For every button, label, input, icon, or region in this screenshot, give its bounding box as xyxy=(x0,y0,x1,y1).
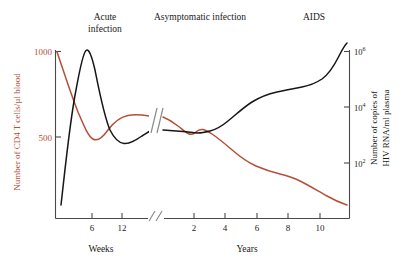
right-tick-1e2-base: 10 xyxy=(354,159,363,169)
phase-label-asymptomatic: Asymptomatic infection xyxy=(154,12,246,22)
phase-labels: Acute infection Asymptomatic infection A… xyxy=(88,12,325,34)
right-tick-1e6-exp: 6 xyxy=(363,46,366,52)
x-axis-title-years: Years xyxy=(236,244,258,254)
weeks-tick-label-12: 12 xyxy=(118,223,127,233)
right-tick-1e2-exp: 2 xyxy=(363,158,366,164)
y-axis-title-right-line2: HIV RNA/ml plasma xyxy=(381,90,391,167)
years-tick-label-8: 8 xyxy=(286,223,291,233)
weeks-tick-label-6: 6 xyxy=(90,223,95,233)
y-axis-title-right-line1: Number of copies of xyxy=(369,91,379,165)
right-tick-label-1e2: 102 xyxy=(354,158,366,169)
right-tick-1e4-base: 10 xyxy=(354,103,363,113)
series-weeks-segment xyxy=(57,50,150,205)
axis-break xyxy=(148,105,164,222)
years-tick-label-6: 6 xyxy=(255,223,260,233)
years-tick-label-10: 10 xyxy=(316,223,326,233)
years-tick-label-2: 2 xyxy=(192,223,197,233)
right-tick-1e4-exp: 4 xyxy=(363,102,366,108)
phase-label-acute-line2: infection xyxy=(88,24,122,34)
rna-curve-years xyxy=(163,43,347,133)
right-tick-label-1e4: 104 xyxy=(354,102,366,113)
right-axis-ticks: 106 104 102 xyxy=(344,46,366,169)
phase-label-aids: AIDS xyxy=(303,12,325,22)
years-tick-label-4: 4 xyxy=(223,223,228,233)
axis-titles: Weeks Years Number of CD4 T cells/µl blo… xyxy=(12,73,391,254)
bottom-axis-ticks: 6 12 2 4 6 8 10 xyxy=(90,213,325,233)
x-axis-title-weeks: Weeks xyxy=(88,244,113,254)
phase-label-acute-line1: Acute xyxy=(94,12,117,22)
cd4-curve-years xyxy=(163,117,347,205)
chart-svg: Acute infection Asymptomatic infection A… xyxy=(0,0,405,265)
left-axis-ticks: 1000 500 xyxy=(34,47,61,143)
right-tick-1e6-base: 10 xyxy=(354,47,363,57)
axis-frame xyxy=(56,50,350,219)
hiv-infection-chart: Acute infection Asymptomatic infection A… xyxy=(0,0,405,265)
y-axis-title-left: Number of CD4 T cells/µl blood xyxy=(12,73,22,191)
rna-curve-weeks xyxy=(61,50,150,205)
left-tick-label-500: 500 xyxy=(39,133,53,143)
series-years-segment xyxy=(163,43,347,205)
right-tick-label-1e6: 106 xyxy=(354,46,366,57)
left-tick-label-1000: 1000 xyxy=(34,47,53,57)
